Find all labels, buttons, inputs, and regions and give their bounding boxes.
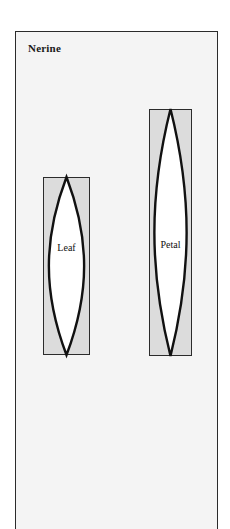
figure-panel: Nerine Leaf Petal: [15, 31, 218, 529]
shape-label-petal: Petal: [149, 240, 192, 250]
page-title: Nerine: [28, 42, 61, 54]
shape-group-leaf: Leaf: [43, 177, 90, 355]
shape-group-petal: Petal: [149, 109, 192, 356]
leaf-outline-icon: [43, 177, 90, 355]
petal-outline-icon: [149, 109, 192, 356]
shape-label-leaf: Leaf: [43, 243, 90, 253]
